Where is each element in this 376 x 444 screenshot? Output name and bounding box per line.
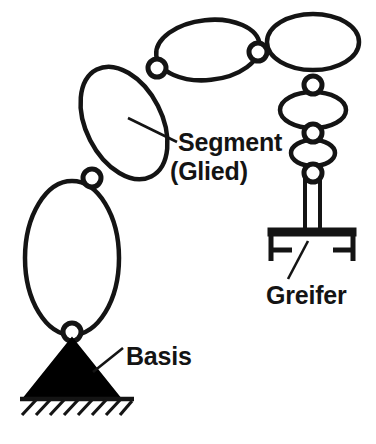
gripper-jaw-left: [271, 234, 292, 261]
gripper-crossbar: [268, 228, 356, 236]
base-triangle: [24, 338, 120, 398]
joint-link3-link4: [249, 43, 267, 61]
gripper-jaw-right: [333, 234, 353, 261]
segment-link-1: [25, 181, 119, 335]
kinematic-chain-figure: Segment (Glied) Basis Greifer: [0, 0, 376, 444]
leader-line-greifer: [288, 241, 308, 279]
label-greifer: Greifer: [266, 281, 347, 309]
joint-link2-link3: [148, 59, 166, 77]
joint-link4-link5: [304, 76, 322, 94]
segment-link-4: [267, 14, 359, 70]
leader-line-basis: [93, 348, 123, 372]
joint-link6-gripper: [304, 164, 322, 182]
joint-link1-link2: [83, 169, 101, 187]
label-segment-line2: (Glied): [170, 157, 248, 185]
kinematic-chain-diagram: Segment (Glied) Basis Greifer: [0, 0, 376, 444]
ground-hatching: [22, 400, 132, 415]
joint-link5-link6: [304, 124, 322, 142]
label-basis: Basis: [126, 342, 192, 370]
segment-link-3: [153, 15, 263, 86]
label-segment-line1: Segment: [178, 128, 283, 156]
